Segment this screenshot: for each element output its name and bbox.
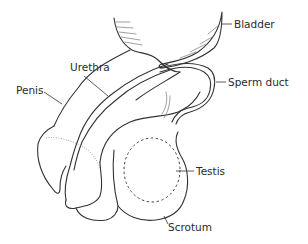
label-penis: Penis xyxy=(16,85,43,96)
testis-outline xyxy=(124,138,180,202)
label-sperm-duct: Sperm duct xyxy=(228,77,289,88)
bladder-shape xyxy=(114,12,222,72)
penis-shape xyxy=(38,50,180,209)
diagram-canvas: Bladder Urethra Penis Sperm duct Testis … xyxy=(0,0,308,244)
label-testis: Testis xyxy=(196,166,225,177)
penis-leader xyxy=(44,92,62,104)
label-scrotum: Scrotum xyxy=(168,222,212,233)
label-bladder: Bladder xyxy=(234,19,275,30)
anatomy-drawing xyxy=(0,0,308,244)
urethra-leader xyxy=(84,76,108,96)
label-urethra: Urethra xyxy=(70,62,110,73)
